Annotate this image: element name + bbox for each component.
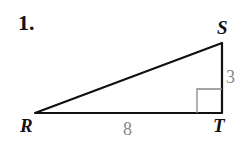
triangle-rst [35, 43, 222, 113]
right-angle-mark [197, 89, 222, 113]
vertex-label-s: S [217, 18, 228, 37]
side-label-st: 3 [226, 68, 235, 86]
side-label-rt: 8 [123, 120, 132, 138]
vertex-label-t: T [213, 116, 225, 135]
vertex-label-r: R [20, 116, 33, 135]
